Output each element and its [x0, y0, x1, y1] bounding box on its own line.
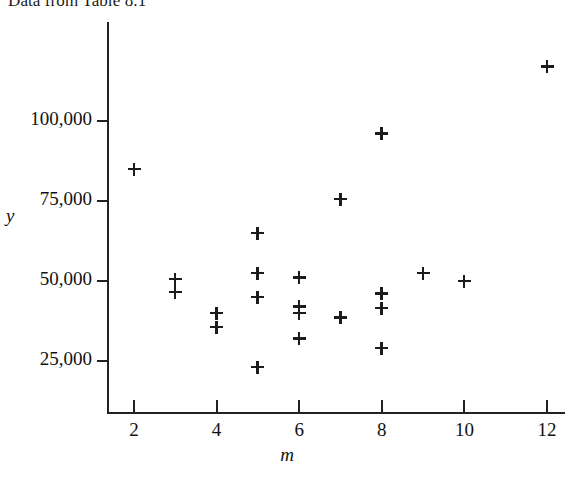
plus-icon-vertical — [174, 286, 177, 299]
y-axis-line — [107, 22, 109, 414]
x-axis-line — [107, 412, 565, 414]
data-point-marker — [375, 127, 388, 140]
y-tick-label: 25,000 — [0, 348, 92, 370]
data-point-marker — [251, 361, 264, 374]
plus-icon-vertical — [215, 321, 218, 334]
plus-icon-vertical — [380, 302, 383, 315]
x-tick-label: 2 — [114, 419, 154, 441]
data-point-marker — [169, 286, 182, 299]
data-point-marker — [293, 307, 306, 320]
plus-icon-vertical — [463, 275, 466, 288]
plus-icon-vertical — [298, 332, 301, 345]
plus-icon-vertical — [339, 311, 342, 324]
y-axis-label: y — [6, 205, 14, 227]
data-point-marker — [458, 275, 471, 288]
plus-icon-vertical — [380, 127, 383, 140]
data-point-marker — [169, 273, 182, 286]
x-axis-label: m — [0, 444, 574, 466]
y-tick-label: 50,000 — [0, 268, 92, 290]
plus-icon-vertical — [256, 291, 259, 304]
data-point-marker — [375, 302, 388, 315]
x-tick-mark — [381, 400, 383, 413]
x-tick-label: 10 — [444, 419, 484, 441]
data-point-marker — [128, 163, 141, 176]
y-tick-label: 100,000 — [0, 108, 92, 130]
scatter-plot: 100,00075,00050,00025,000 24681012 — [0, 0, 574, 477]
plus-icon-vertical — [546, 60, 549, 73]
plus-icon-vertical — [133, 163, 136, 176]
y-tick-mark — [97, 200, 108, 202]
data-point-marker — [375, 342, 388, 355]
plus-icon-vertical — [339, 193, 342, 206]
y-tick-mark — [97, 360, 108, 362]
plus-icon-vertical — [422, 267, 425, 280]
data-point-marker — [210, 307, 223, 320]
plus-icon-vertical — [380, 342, 383, 355]
plus-icon-vertical — [256, 227, 259, 240]
data-point-marker — [293, 271, 306, 284]
data-point-marker — [334, 193, 347, 206]
x-tick-mark — [298, 400, 300, 413]
data-point-marker — [375, 287, 388, 300]
x-tick-mark — [216, 400, 218, 413]
plus-icon-vertical — [298, 271, 301, 284]
x-tick-label: 12 — [527, 419, 567, 441]
plus-icon-vertical — [380, 287, 383, 300]
x-tick-label: 8 — [362, 419, 402, 441]
plus-icon-vertical — [215, 307, 218, 320]
y-tick-mark — [97, 120, 108, 122]
x-tick-label: 4 — [197, 419, 237, 441]
data-point-marker — [251, 291, 264, 304]
x-tick-mark — [546, 400, 548, 413]
y-tick-mark — [97, 280, 108, 282]
chart-page: Data from Table 8.1 100,00075,00050,0002… — [0, 0, 574, 477]
data-point-marker — [334, 311, 347, 324]
data-point-marker — [417, 267, 430, 280]
data-point-marker — [251, 267, 264, 280]
x-tick-mark — [133, 400, 135, 413]
data-point-marker — [541, 60, 554, 73]
plus-icon-vertical — [256, 361, 259, 374]
data-point-marker — [210, 321, 223, 334]
data-point-marker — [251, 227, 264, 240]
data-point-marker — [293, 332, 306, 345]
x-tick-label: 6 — [279, 419, 319, 441]
plus-icon-vertical — [174, 273, 177, 286]
plus-icon-vertical — [256, 267, 259, 280]
plus-icon-vertical — [298, 307, 301, 320]
x-tick-mark — [463, 400, 465, 413]
